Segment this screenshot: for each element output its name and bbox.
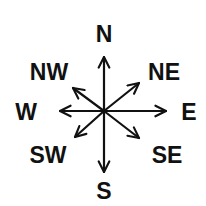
label-nw: NW [30,59,69,85]
arrow-sw [75,111,104,137]
compass-rose: N NE E SE S SW W NW [0,0,206,206]
label-n: N [96,21,113,47]
label-sw: SW [29,142,66,168]
label-s: S [96,178,111,204]
label-e: E [181,99,196,125]
label-ne: NE [148,59,180,85]
label-se: SE [152,142,183,168]
arrow-se [104,111,139,138]
arrow-ne [104,83,139,111]
arrow-nw [73,88,104,111]
label-w: W [15,99,37,125]
